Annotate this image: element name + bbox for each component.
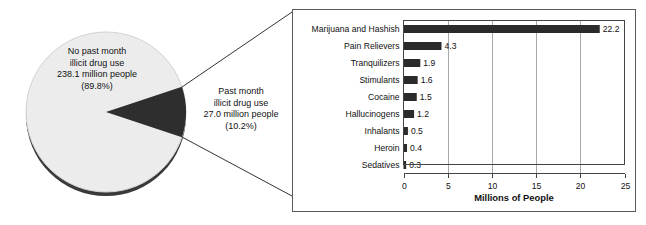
pie-major-line4: (89.8%) — [22, 81, 172, 93]
bar-category-label: Hallucinogens — [346, 109, 400, 119]
bar-value-label: 0.4 — [410, 143, 422, 153]
bar-category-label: Sedatives — [362, 160, 400, 170]
pie-chart-panel: No past month illicit drug use 238.1 mil… — [0, 0, 292, 225]
pie-major-line2: illicit drug use — [22, 58, 172, 70]
bar-chart-svg: Marijuana and HashishPain RelieversTranq… — [293, 10, 635, 211]
pie-major-line1: No past month — [22, 46, 172, 58]
pie-minor-line1: Past month — [185, 86, 297, 98]
bar-value-label: 1.2 — [417, 109, 429, 119]
x-tick-label: 20 — [576, 181, 586, 191]
bar-category-label: Inhalants — [365, 126, 400, 136]
bar-value-label: 22.2 — [603, 24, 620, 34]
pie-label-no-past-month-use: No past month illicit drug use 238.1 mil… — [22, 46, 172, 92]
bar — [404, 144, 408, 152]
bar — [404, 93, 417, 101]
leader-line-bottom — [182, 137, 292, 196]
pie-label-past-month-use: Past month illicit drug use 27.0 million… — [185, 86, 297, 132]
bar-category-label: Pain Relievers — [344, 41, 399, 51]
pie-minor-line3: 27.0 million people — [185, 109, 297, 121]
bar-chart-panel: Marijuana and HashishPain RelieversTranq… — [292, 9, 636, 212]
x-tick-labels-group: 0510152025 — [402, 174, 630, 191]
category-labels-group: Marijuana and HashishPain RelieversTranq… — [312, 24, 400, 170]
bar-value-label: 1.6 — [421, 75, 433, 85]
bar-category-label: Tranquilizers — [351, 58, 400, 68]
bar-category-label: Stimulants — [359, 75, 399, 85]
x-tick-label: 0 — [402, 181, 407, 191]
bar-category-label: Heroin — [374, 143, 400, 153]
bar-value-label: 1.9 — [423, 58, 435, 68]
x-tick-label: 25 — [621, 181, 631, 191]
bar-value-label: 4.3 — [445, 41, 457, 51]
bar-category-label: Cocaine — [368, 92, 400, 102]
bar-value-label: 0.3 — [409, 160, 421, 170]
x-tick-label: 5 — [446, 181, 451, 191]
figure-root: No past month illicit drug use 238.1 mil… — [0, 0, 646, 225]
pie-minor-line4: (10.2%) — [185, 121, 297, 133]
pie-major-line3: 238.1 million people — [22, 69, 172, 81]
bar — [404, 110, 415, 118]
bar — [404, 127, 408, 135]
x-axis-title: Millions of People — [474, 192, 554, 203]
gridlines-group — [449, 21, 581, 174]
x-tick-label: 15 — [532, 181, 542, 191]
bar-value-label: 1.5 — [420, 92, 432, 102]
bar-value-label: 0.5 — [411, 126, 423, 136]
pie-minor-line2: illicit drug use — [185, 98, 297, 110]
leader-line-top — [182, 12, 292, 87]
x-tick-label: 10 — [488, 181, 498, 191]
bars-group — [404, 25, 600, 169]
bar — [404, 59, 421, 67]
bar-category-label: Marijuana and Hashish — [312, 24, 400, 34]
bar — [404, 25, 600, 33]
bar — [404, 42, 442, 50]
bar — [404, 76, 418, 84]
